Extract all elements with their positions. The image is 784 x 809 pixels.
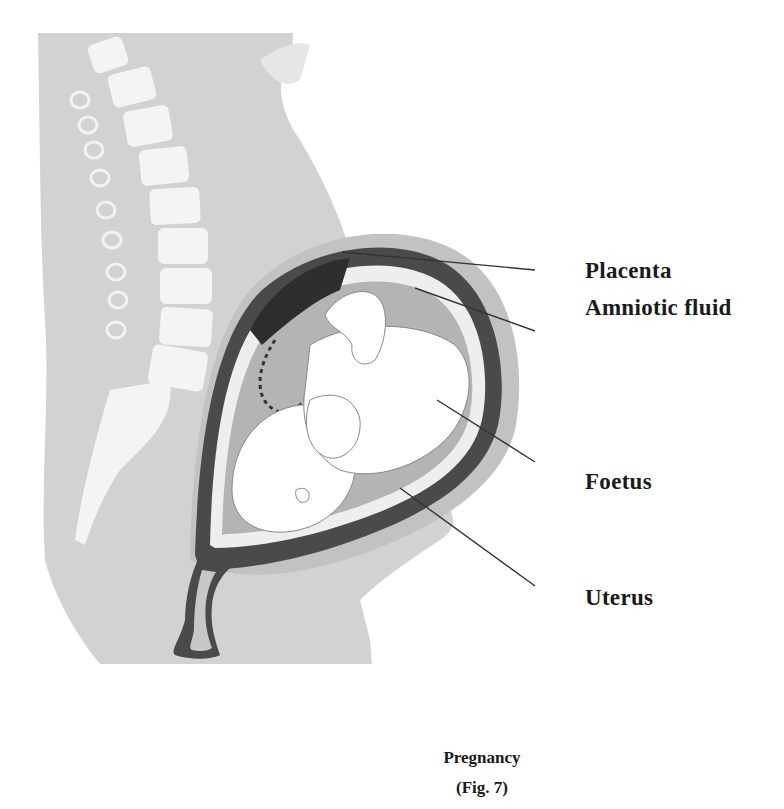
label-foetus: Foetus [585, 469, 652, 495]
figure-number: (Fig. 7) [90, 778, 784, 798]
label-placenta: Placenta [585, 258, 672, 284]
anatomy-illustration [0, 0, 784, 809]
label-amniotic-fluid: Amniotic fluid [585, 295, 732, 321]
label-uterus: Uterus [585, 585, 653, 611]
pregnancy-diagram: Placenta Amniotic fluid Foetus Uterus Pr… [0, 0, 784, 809]
figure-title: Pregnancy [90, 748, 784, 768]
